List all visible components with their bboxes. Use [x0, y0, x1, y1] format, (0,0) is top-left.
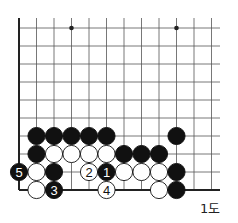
star-point [174, 26, 179, 31]
white-stone [28, 163, 45, 180]
black-stone [168, 181, 185, 198]
white-stone [98, 145, 115, 162]
white-stone [63, 145, 80, 162]
white-stone [133, 163, 150, 180]
black-stone [98, 127, 115, 144]
diagram-caption: 1도 [200, 198, 220, 217]
black-stone [115, 145, 132, 162]
white-stone [45, 145, 62, 162]
go-board: 52134 [0, 0, 238, 223]
black-stone [168, 163, 185, 180]
move-number: 4 [103, 183, 110, 198]
black-stone [133, 145, 150, 162]
move-number: 1 [103, 165, 110, 180]
move-number: 2 [85, 165, 92, 180]
move-number: 3 [50, 183, 57, 198]
black-stone [168, 127, 185, 144]
white-stone [115, 163, 132, 180]
white-stone [28, 181, 45, 198]
black-stone [28, 145, 45, 162]
black-stone [45, 127, 62, 144]
black-stone [80, 127, 97, 144]
star-point [69, 26, 74, 31]
white-stone [150, 181, 167, 198]
black-stone [45, 163, 62, 180]
black-stone [150, 145, 167, 162]
white-stone [80, 145, 97, 162]
move-number: 5 [15, 165, 22, 180]
white-stone [150, 163, 167, 180]
black-stone [63, 127, 80, 144]
black-stone [28, 127, 45, 144]
